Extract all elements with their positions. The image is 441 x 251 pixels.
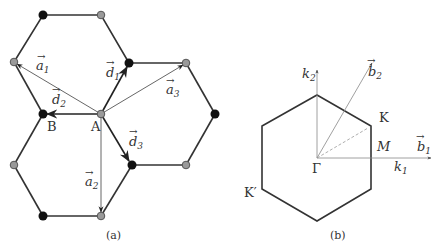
caption-a: (a) <box>106 229 121 242</box>
gray-site <box>10 161 18 169</box>
figure: a1 → d1 → d2 → a3 → d3 → a2 → B A (a) k2… <box>0 0 441 251</box>
k2-label: k2 <box>302 66 316 83</box>
gray-site <box>97 110 105 118</box>
svg-text:→: → <box>367 55 376 66</box>
svg-text:→: → <box>37 51 46 62</box>
gamma-k-dashed <box>317 128 368 158</box>
a-vectors <box>17 64 183 212</box>
gray-site <box>182 59 190 67</box>
black-site <box>125 59 134 68</box>
svg-text:→: → <box>85 167 94 178</box>
k-prime-label: K′ <box>244 185 257 200</box>
sublattice-b-sites <box>39 11 220 221</box>
black-site <box>39 11 48 20</box>
gray-site <box>97 11 105 19</box>
k-point-label: K <box>379 110 389 125</box>
svg-text:→: → <box>416 131 425 142</box>
sublattice-a-sites <box>10 11 190 220</box>
gamma-label: Γ <box>312 161 321 176</box>
panel-b-brillouin-zone: k2 b2 → K M b1 → k1 Γ K′ (b) <box>244 55 431 242</box>
panel-a-lattice: a1 → d1 → d2 → a3 → d3 → a2 → B A (a) <box>10 11 219 243</box>
gray-site <box>10 58 18 66</box>
black-site <box>211 110 220 119</box>
gray-site <box>182 161 190 169</box>
b2-vector <box>317 63 372 158</box>
black-site <box>39 212 48 221</box>
black-site <box>128 161 137 170</box>
k1-label: k1 <box>394 159 408 176</box>
d3-arrow <box>101 114 129 161</box>
svg-text:→: → <box>106 57 115 68</box>
svg-text:→: → <box>52 84 61 95</box>
m-point-label: M <box>376 139 391 154</box>
site-label-a: A <box>90 119 101 134</box>
caption-b: (b) <box>330 229 346 242</box>
gray-site <box>97 212 105 220</box>
site-label-b: B <box>47 119 57 134</box>
svg-text:→: → <box>166 75 175 86</box>
black-site <box>39 110 48 119</box>
b2-label: b2 <box>368 64 382 81</box>
svg-text:→: → <box>129 126 138 137</box>
